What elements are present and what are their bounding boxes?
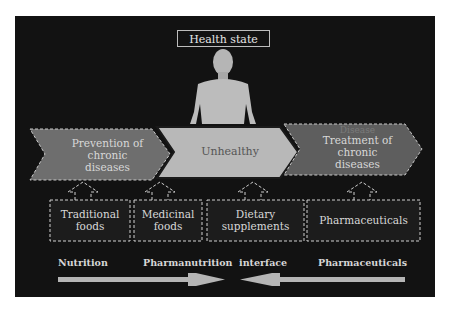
nutrition-arrow xyxy=(58,273,225,286)
category-dietary-supplements: Dietary supplements xyxy=(207,208,304,232)
axis-label-pharmaceuticals: Pharmaceuticals xyxy=(318,257,407,268)
category-traditional-foods: Traditional foods xyxy=(50,208,130,232)
stage-treatment-label: Treatment of chronic diseases xyxy=(305,134,410,170)
axis-label-nutrition: Nutrition xyxy=(58,257,108,268)
stage-prevention-label: Prevention of chronic diseases xyxy=(55,137,160,173)
category-pharmaceuticals: Pharmaceuticals xyxy=(307,214,420,226)
category-medicinal-foods: Medicinal foods xyxy=(134,208,202,232)
stage-unhealthy-label: Unhealthy xyxy=(175,146,285,158)
axis-label-interface: Pharmanutrition interface xyxy=(143,257,287,268)
pharmaceuticals-arrow xyxy=(240,273,405,286)
up-arrows xyxy=(68,182,377,200)
human-figure-icon xyxy=(190,49,256,124)
